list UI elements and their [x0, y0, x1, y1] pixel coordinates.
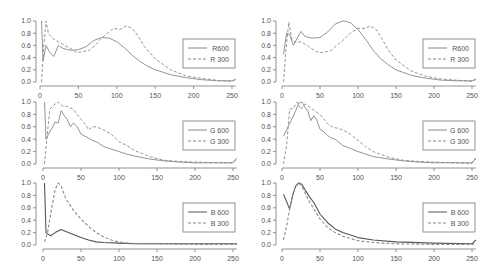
legend-label: B 300 — [451, 220, 469, 227]
legend-label: G 600 — [450, 127, 469, 134]
legend-label: B 300 — [211, 220, 229, 227]
legend: R600R 300 — [423, 39, 475, 68]
x-tick-label: 0 — [41, 255, 45, 262]
y-tick-label: 0.0 — [21, 78, 31, 85]
y-tick-label: 0.2 — [21, 148, 31, 155]
y-tick-label: 0.8 — [21, 30, 31, 37]
legend-label: G 300 — [210, 138, 229, 145]
legend-label: G 300 — [450, 138, 469, 145]
x-tick-label: 250 — [227, 255, 239, 262]
y-tick-label: 0.2 — [261, 229, 271, 236]
y-tick-label: 0.2 — [21, 229, 31, 236]
legend-label: R600 — [212, 45, 229, 52]
y-tick-label: 0.2 — [21, 66, 31, 73]
y-tick-label: 0.2 — [261, 148, 271, 155]
x-tick-label: 0 — [38, 92, 42, 99]
chart-left-top: 0.00.20.40.60.81.0050100150200250R600R 3… — [21, 17, 238, 99]
x-tick-label: 150 — [390, 92, 402, 99]
y-tick-label: 0.6 — [21, 123, 31, 130]
y-tick-label: 0.8 — [261, 192, 271, 199]
legend-label: B 600 — [451, 209, 469, 216]
x-tick-label: 150 — [149, 92, 161, 99]
legend: R600R 300 — [183, 39, 235, 68]
legend-label: R 300 — [210, 56, 229, 63]
x-tick-label: 200 — [189, 255, 201, 262]
x-tick-label: 100 — [113, 174, 125, 181]
y-tick-label: 0.4 — [21, 136, 31, 143]
y-tick-label: 0.0 — [261, 241, 271, 248]
x-tick-label: 200 — [428, 174, 440, 181]
histogram-grid: 0.00.20.40.60.81.0050100150200250R600R 3… — [0, 0, 499, 276]
y-tick-label: 0.6 — [21, 42, 31, 49]
x-tick-label: 250 — [466, 174, 478, 181]
x-tick-label: 100 — [352, 92, 364, 99]
x-tick-label: 50 — [316, 174, 324, 181]
x-tick-label: 100 — [111, 92, 123, 99]
y-tick-label: 1.0 — [21, 179, 31, 186]
y-tick-label: 0.8 — [261, 111, 271, 118]
chart-right-top: 0.00.20.40.60.81.0050100150200250R600R 3… — [261, 17, 478, 99]
y-tick-label: 0.6 — [261, 42, 271, 49]
x-tick-label: 50 — [75, 92, 83, 99]
x-tick-label: 50 — [316, 255, 324, 262]
x-tick-label: 150 — [151, 255, 163, 262]
y-tick-label: 0.8 — [21, 192, 31, 199]
y-tick-label: 0.4 — [261, 54, 271, 61]
x-tick-label: 250 — [227, 174, 239, 181]
y-tick-label: 0.0 — [21, 241, 31, 248]
legend-label: B 600 — [211, 209, 229, 216]
legend: B 600B 300 — [423, 203, 475, 232]
chart-right-middle: 0.00.20.40.60.81.0050100150200250G 600G … — [261, 98, 478, 181]
legend: G 600G 300 — [423, 121, 475, 150]
y-tick-label: 0.0 — [261, 78, 271, 85]
y-tick-label: 1.0 — [261, 179, 271, 186]
legend-label: G 600 — [210, 127, 229, 134]
x-tick-label: 200 — [189, 174, 201, 181]
chart-right-bottom: 0.00.20.40.60.81.0050100150200250B 600B … — [261, 179, 478, 262]
y-tick-label: 0.6 — [21, 204, 31, 211]
x-tick-label: 250 — [466, 255, 478, 262]
x-tick-label: 200 — [428, 255, 440, 262]
x-tick-label: 0 — [41, 174, 45, 181]
y-tick-label: 0.0 — [21, 160, 31, 167]
y-tick-label: 0.4 — [261, 217, 271, 224]
y-tick-label: 1.0 — [261, 17, 271, 24]
x-tick-label: 150 — [390, 255, 402, 262]
legend-label: R600 — [452, 45, 469, 52]
x-tick-label: 0 — [280, 255, 284, 262]
y-tick-label: 0.4 — [21, 54, 31, 61]
y-tick-label: 1.0 — [21, 98, 31, 105]
x-tick-label: 250 — [466, 92, 478, 99]
x-tick-label: 100 — [352, 174, 364, 181]
y-tick-label: 0.6 — [261, 123, 271, 130]
legend: G 600G 300 — [183, 121, 235, 150]
x-tick-label: 200 — [428, 92, 440, 99]
y-tick-label: 0.0 — [261, 160, 271, 167]
y-tick-label: 0.2 — [261, 66, 271, 73]
legend-label: R 300 — [450, 56, 469, 63]
y-tick-label: 0.8 — [261, 30, 271, 37]
y-tick-label: 1.0 — [21, 17, 31, 24]
chart-left-bottom: 0.00.20.40.60.81.0050100150200250B 600B … — [21, 179, 239, 262]
legend: B 600B 300 — [183, 203, 235, 232]
y-tick-label: 0.8 — [21, 111, 31, 118]
chart-left-middle: 0.00.20.40.60.81.0050100150200250G 600G … — [21, 98, 239, 181]
x-tick-label: 50 — [316, 92, 324, 99]
x-tick-label: 100 — [352, 255, 364, 262]
x-tick-label: 50 — [77, 255, 85, 262]
x-tick-label: 50 — [77, 174, 85, 181]
x-tick-label: 250 — [226, 92, 238, 99]
x-tick-label: 0 — [280, 92, 284, 99]
y-tick-label: 0.4 — [21, 217, 31, 224]
x-tick-label: 200 — [188, 92, 200, 99]
y-tick-label: 0.6 — [261, 204, 271, 211]
y-tick-label: 0.4 — [261, 136, 271, 143]
x-tick-label: 0 — [280, 174, 284, 181]
y-tick-label: 1.0 — [261, 98, 271, 105]
x-tick-label: 150 — [390, 174, 402, 181]
x-tick-label: 150 — [151, 174, 163, 181]
x-tick-label: 100 — [113, 255, 125, 262]
